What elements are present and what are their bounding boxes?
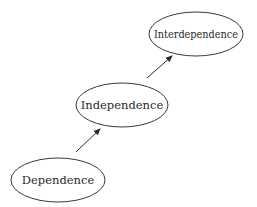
independence-label: Independence bbox=[81, 98, 164, 112]
arrow-independence-to-interdependence bbox=[147, 56, 172, 78]
node-interdependence: Interdependence bbox=[149, 12, 243, 56]
arrow-dependence-to-independence bbox=[76, 129, 100, 152]
dependence-label: Dependence bbox=[22, 173, 95, 187]
node-dependence: Dependence bbox=[11, 158, 105, 202]
maturity-continuum-diagram: Dependence Independence Interdependence bbox=[0, 0, 257, 207]
interdependence-label: Interdependence bbox=[154, 27, 238, 41]
node-independence: Independence bbox=[76, 83, 168, 127]
